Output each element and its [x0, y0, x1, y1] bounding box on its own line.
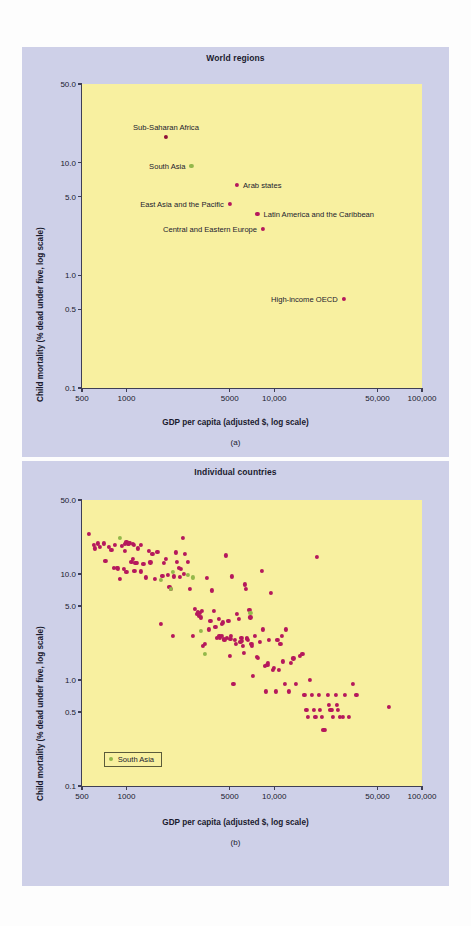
data-point — [256, 656, 260, 660]
data-point — [259, 568, 263, 572]
data-point — [186, 560, 190, 564]
data-point — [284, 627, 288, 631]
data-point — [228, 202, 232, 206]
data-point — [281, 659, 285, 663]
data-point — [347, 715, 351, 719]
data-point — [213, 624, 217, 628]
x-tick-mark — [377, 786, 378, 790]
data-point — [132, 568, 136, 572]
data-point — [175, 560, 179, 564]
data-point — [354, 693, 358, 697]
data-point — [323, 728, 327, 732]
data-point — [113, 542, 117, 546]
data-point — [118, 536, 122, 540]
data-point — [158, 578, 162, 582]
data-point — [272, 666, 276, 670]
x-tick-mark — [421, 388, 422, 392]
data-point-label: Central and Eastern Europe — [163, 224, 257, 233]
data-point-label: High-income OECD — [271, 294, 338, 303]
data-point — [267, 638, 271, 642]
figure-container: World regions Child mortality (% dead un… — [0, 0, 471, 926]
data-point-label: East Asia and the Pacific — [140, 200, 224, 209]
data-point — [228, 654, 232, 658]
data-point — [101, 541, 105, 545]
data-point — [250, 644, 254, 648]
data-point — [139, 542, 143, 546]
data-point — [234, 642, 238, 646]
data-point — [240, 639, 244, 643]
data-point — [166, 573, 170, 577]
legend-south-asia: South Asia — [104, 752, 163, 767]
x-tick-label: 10,000 — [262, 792, 286, 801]
data-point — [313, 715, 317, 719]
data-point — [343, 693, 347, 697]
data-point — [203, 642, 207, 646]
data-point — [317, 693, 321, 697]
data-point — [230, 574, 234, 578]
data-point — [320, 715, 324, 719]
data-point — [170, 570, 174, 574]
data-point — [261, 227, 265, 231]
data-point-label: Latin America and the Caribbean — [263, 210, 374, 219]
x-tick-label: 50,000 — [365, 792, 389, 801]
x-tick-mark — [229, 786, 230, 790]
x-tick-mark — [274, 786, 275, 790]
data-point — [208, 619, 212, 623]
data-point — [153, 577, 157, 581]
data-point — [205, 576, 209, 580]
data-point — [277, 668, 281, 672]
data-point — [183, 552, 187, 556]
y-tick-mark — [78, 679, 82, 680]
data-point — [103, 559, 107, 563]
data-point — [244, 587, 248, 591]
data-point — [251, 674, 255, 678]
data-point — [124, 570, 128, 574]
panel-b-plot-area: 50.010.05.01.00.50.15001000500010,00050,… — [81, 500, 422, 787]
data-point — [126, 542, 130, 546]
data-point — [98, 545, 102, 549]
data-point — [264, 689, 268, 693]
data-point — [203, 652, 207, 656]
data-point — [253, 634, 257, 638]
data-point — [109, 548, 113, 552]
data-point — [170, 634, 174, 638]
panel-b-x-axis-title: GDP per capita (adjusted $, log scale) — [22, 818, 449, 827]
data-point — [118, 577, 122, 581]
data-point — [318, 708, 322, 712]
data-point — [199, 629, 203, 633]
y-tick-mark — [78, 275, 82, 276]
data-point — [286, 689, 290, 693]
data-point — [312, 708, 316, 712]
data-point — [333, 693, 337, 697]
data-point — [242, 582, 246, 586]
data-point — [136, 546, 140, 550]
data-point — [200, 609, 204, 613]
x-tick-label: 50,000 — [365, 394, 389, 403]
data-point-label: South Asia — [149, 162, 185, 171]
data-point — [336, 708, 340, 712]
data-point — [273, 689, 277, 693]
x-tick-label: 500 — [75, 394, 88, 403]
legend-swatch-icon — [109, 757, 113, 761]
x-tick-mark — [126, 388, 127, 392]
legend-label: South Asia — [118, 755, 154, 764]
data-point — [237, 617, 241, 621]
data-point — [135, 561, 139, 565]
data-point — [199, 615, 203, 619]
data-point — [235, 612, 239, 616]
data-point — [181, 536, 185, 540]
data-point — [248, 615, 252, 619]
data-point — [278, 642, 282, 646]
data-point — [87, 532, 91, 536]
panel-b: Individual countries Child mortality (% … — [22, 461, 449, 886]
data-point — [302, 693, 306, 697]
x-tick-mark — [421, 786, 422, 790]
data-point — [158, 622, 162, 626]
x-tick-label: 5000 — [221, 792, 239, 801]
data-point — [283, 682, 287, 686]
data-point — [269, 591, 273, 595]
x-tick-label: 10,000 — [262, 394, 286, 403]
data-point — [190, 634, 194, 638]
data-point — [310, 693, 314, 697]
data-point — [294, 682, 298, 686]
